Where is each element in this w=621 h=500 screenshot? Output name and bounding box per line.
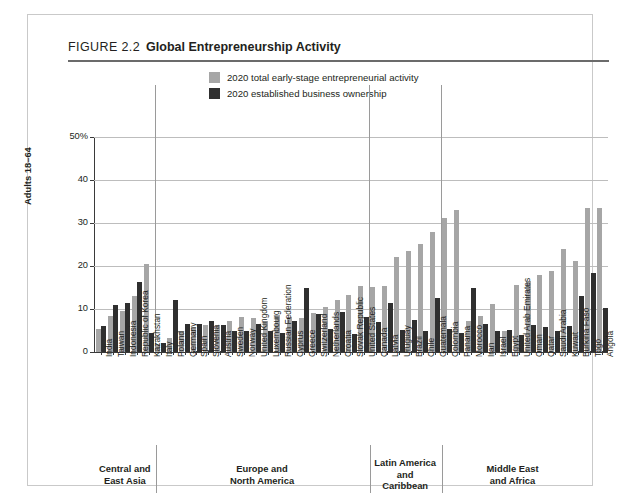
legend-item-tea: 2020 total early-stage entrepreneurial a… bbox=[209, 72, 418, 83]
x-axis-tick-mark bbox=[196, 351, 197, 355]
x-axis-label-cell: Slovenia bbox=[202, 355, 214, 447]
x-axis-category-label: Saudi Arabia bbox=[558, 310, 568, 358]
bar-tea bbox=[430, 232, 435, 352]
region-label: Latin AmericaandCaribbean bbox=[350, 457, 460, 492]
x-axis-label-cell: Norway bbox=[238, 355, 250, 447]
bar-group bbox=[238, 137, 250, 352]
x-axis-label-cell: Slovak Republic bbox=[346, 355, 358, 447]
x-axis-tick-mark bbox=[507, 351, 508, 355]
x-axis-label-cell: United Arab Emirates bbox=[513, 355, 525, 447]
bar-group bbox=[298, 137, 310, 352]
x-axis-category-label: United Kingdom bbox=[259, 297, 269, 357]
bar-group bbox=[501, 137, 513, 352]
x-axis-label-cell: Israel bbox=[489, 355, 501, 447]
x-axis-tick-mark bbox=[268, 351, 269, 355]
x-axis-label-cell: Iran bbox=[477, 355, 489, 447]
x-axis-tick-mark bbox=[602, 351, 603, 355]
x-axis-label-cell: Togo bbox=[584, 355, 596, 447]
x-axis-label-cell: Chile bbox=[417, 355, 429, 447]
x-axis-label-cell: Colombia bbox=[441, 355, 453, 447]
x-axis-label-cell: Italy bbox=[155, 355, 167, 447]
x-axis-tick-mark bbox=[555, 351, 556, 355]
x-axis-label-cell: Egypt bbox=[501, 355, 513, 447]
x-axis-category-label: Russian Federation bbox=[283, 284, 293, 357]
x-axis-tick-mark bbox=[173, 351, 174, 355]
x-axis-label-cell: Morocco bbox=[465, 355, 477, 447]
bar-group bbox=[214, 137, 226, 352]
bar-group bbox=[95, 137, 107, 352]
bar-group bbox=[191, 137, 203, 352]
x-axis-tick-mark bbox=[578, 351, 579, 355]
bar-group bbox=[465, 137, 477, 352]
x-axis-category-label: Angola bbox=[605, 331, 615, 357]
bar-group bbox=[382, 137, 394, 352]
bar-group bbox=[179, 137, 191, 352]
x-axis-category-label: Slovak Republic bbox=[355, 297, 365, 357]
legend-item-ebo: 2020 established business ownership bbox=[209, 88, 418, 99]
figure-number: FIGURE 2.2 bbox=[68, 40, 140, 54]
x-axis-label-cell: Saudi Arabia bbox=[549, 355, 561, 447]
x-axis-label-cell: Austria bbox=[214, 355, 226, 447]
x-axis-tick-mark bbox=[531, 351, 532, 355]
y-axis-tick-label: 10 bbox=[54, 303, 88, 313]
region-separator bbox=[441, 85, 442, 352]
x-axis-tick-mark bbox=[137, 351, 138, 355]
x-axis-tick-mark bbox=[483, 351, 484, 355]
x-axis-label-cell: Netherlands bbox=[322, 355, 334, 447]
x-axis-tick-mark bbox=[113, 351, 114, 355]
region-label: Europe andNorth America bbox=[207, 463, 317, 486]
x-axis-tick-mark bbox=[435, 351, 436, 355]
x-axis-label-cell: Germany bbox=[179, 355, 191, 447]
bar-group bbox=[417, 137, 429, 352]
x-axis-label-cell: Uruguay bbox=[393, 355, 405, 447]
figure-header: FIGURE 2.2Global Entrepreneurship Activi… bbox=[68, 37, 609, 59]
x-axis-tick-mark bbox=[232, 351, 233, 355]
x-axis-tick-mark bbox=[220, 351, 221, 355]
chart-legend: 2020 total early-stage entrepreneurial a… bbox=[209, 72, 418, 104]
region-separator bbox=[155, 85, 156, 352]
legend-label-ebo: 2020 established business ownership bbox=[227, 88, 386, 99]
x-axis-label-cell: Burkina Faso bbox=[573, 355, 585, 447]
bar-group bbox=[596, 137, 608, 352]
x-axis-label-cell: Latvia bbox=[382, 355, 394, 447]
bar-tea bbox=[597, 208, 602, 352]
x-axis-tick-mark bbox=[471, 351, 472, 355]
x-axis-tick-mark bbox=[256, 351, 257, 355]
x-axis-tick-mark bbox=[519, 351, 520, 355]
x-axis-tick-mark bbox=[447, 351, 448, 355]
x-axis-label-cell: Kazakhstan bbox=[143, 355, 155, 447]
x-axis-tick-mark bbox=[101, 351, 102, 355]
x-axis-tick-mark bbox=[543, 351, 544, 355]
region-label: Central andEast Asia bbox=[70, 463, 180, 486]
x-axis-label-cell: India bbox=[95, 355, 107, 447]
legend-swatch-ebo bbox=[209, 88, 220, 99]
x-axis-label-cell: Cyprus bbox=[286, 355, 298, 447]
x-axis-tick-mark bbox=[280, 351, 281, 355]
bar-group bbox=[167, 137, 179, 352]
x-axis-tick-mark bbox=[567, 351, 568, 355]
y-axis-tick-labels: 01020304050% bbox=[52, 137, 88, 352]
bar-group bbox=[107, 137, 119, 352]
x-axis-tick-mark bbox=[185, 351, 186, 355]
x-axis-tick-mark bbox=[244, 351, 245, 355]
x-axis-label-cell: Republic of Korea bbox=[131, 355, 143, 447]
y-axis-tick-label: 0 bbox=[54, 346, 88, 356]
title-divider bbox=[68, 60, 609, 62]
x-axis-category-label: Republic of Korea bbox=[140, 290, 150, 357]
x-axis-tick-mark bbox=[125, 351, 126, 355]
y-axis-tick-label: 50% bbox=[54, 131, 88, 141]
x-axis-label-cell: Kuwait bbox=[561, 355, 573, 447]
x-axis-category-label: United Arab Emirates bbox=[522, 278, 532, 357]
x-axis-label-cell: Brazil bbox=[405, 355, 417, 447]
x-axis-label-cell: Russian Federation bbox=[274, 355, 286, 447]
region-label: Middle Eastand Africa bbox=[458, 463, 568, 486]
x-axis-tick-mark bbox=[340, 351, 341, 355]
bar-group bbox=[226, 137, 238, 352]
x-axis-label-cell: Sweden bbox=[226, 355, 238, 447]
bar-group bbox=[202, 137, 214, 352]
bar-group bbox=[453, 137, 465, 352]
y-axis-tick-label: 40 bbox=[54, 174, 88, 184]
x-axis-label-cell: Switzerland bbox=[310, 355, 322, 447]
x-axis-label-cell: Taiwan bbox=[107, 355, 119, 447]
x-axis-tick-mark bbox=[352, 351, 353, 355]
